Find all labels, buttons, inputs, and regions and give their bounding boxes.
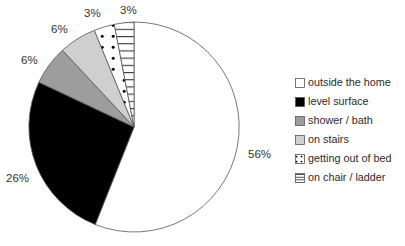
- pie-chart-figure: 56% 26% 6% 6% 3% 3% outside the home lev…: [0, 0, 405, 246]
- legend-item-level-surface[interactable]: level surface: [296, 95, 369, 107]
- pie-slices: [29, 22, 239, 232]
- legend-swatch-on-chair-ladder-icon: [296, 174, 305, 183]
- legend-item-outside-the-home[interactable]: outside the home: [296, 76, 391, 88]
- pie-label-6-shower: 6%: [21, 54, 38, 66]
- chart-legend: outside the home level surface shower / …: [296, 76, 392, 183]
- legend-label-on-chair-ladder: on chair / ladder: [308, 171, 386, 183]
- pie-label-6-stairs: 6%: [51, 23, 68, 35]
- legend-item-on-chair-ladder[interactable]: on chair / ladder: [296, 171, 386, 183]
- legend-swatch-getting-out-of-bed-icon: [296, 155, 305, 164]
- pie-label-26: 26%: [6, 172, 29, 184]
- pie-label-3-chair: 3%: [120, 4, 137, 16]
- pie-label-3-bed: 3%: [84, 7, 101, 19]
- legend-swatch-level-surface-icon: [296, 98, 305, 107]
- legend-item-on-stairs[interactable]: on stairs: [296, 133, 350, 145]
- legend-swatch-outside-the-home-icon: [296, 79, 305, 88]
- legend-item-shower-bath[interactable]: shower / bath: [296, 114, 373, 126]
- legend-item-getting-out-of-bed[interactable]: getting out of bed: [296, 152, 392, 164]
- legend-label-getting-out-of-bed: getting out of bed: [308, 152, 391, 164]
- legend-label-on-stairs: on stairs: [308, 133, 349, 145]
- legend-swatch-shower-bath-icon: [296, 117, 305, 126]
- legend-label-outside-the-home: outside the home: [308, 76, 391, 88]
- pie-label-56: 56%: [248, 148, 271, 160]
- legend-label-shower-bath: shower / bath: [308, 114, 373, 126]
- pie-chart-svg: 56% 26% 6% 6% 3% 3% outside the home lev…: [0, 0, 405, 246]
- legend-label-level-surface: level surface: [308, 95, 369, 107]
- legend-swatch-on-stairs-icon: [296, 136, 305, 145]
